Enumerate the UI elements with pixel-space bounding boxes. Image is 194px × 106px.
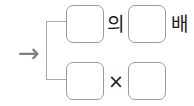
answer-box-1[interactable] xyxy=(66,5,104,43)
operator-label-ui: 의 xyxy=(103,10,127,38)
diagram-canvas: → 의 배 × xyxy=(0,0,194,106)
answer-box-3[interactable] xyxy=(66,62,104,100)
answer-box-4[interactable] xyxy=(128,62,166,100)
answer-box-2[interactable] xyxy=(128,5,166,43)
operator-label-bae: 배 xyxy=(166,10,192,38)
grouping-bracket xyxy=(46,21,67,80)
operator-label-multiply: × xyxy=(104,67,128,95)
right-arrow-icon: → xyxy=(12,38,46,68)
